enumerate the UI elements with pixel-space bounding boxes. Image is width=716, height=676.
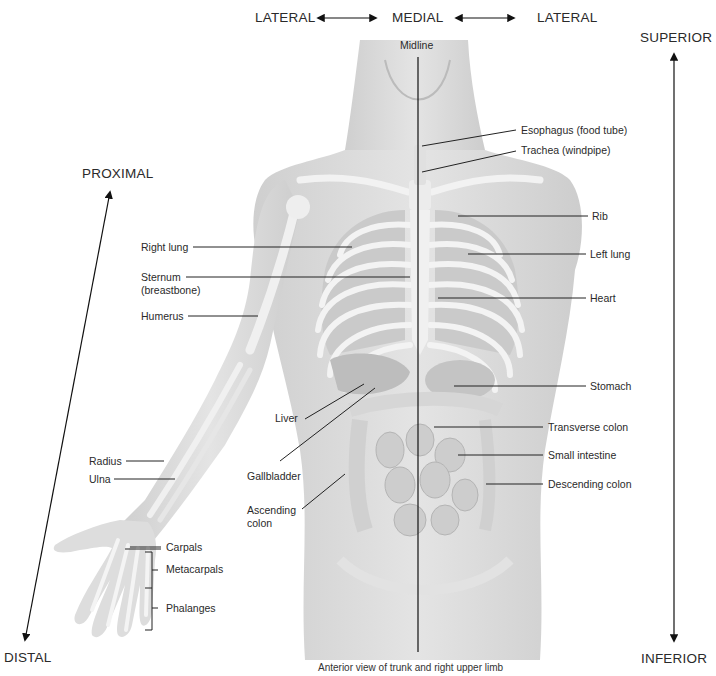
label-metacarpals: Metacarpals — [166, 563, 223, 576]
label-descending-colon: Descending colon — [548, 478, 631, 491]
anatomy-illustration — [0, 0, 716, 676]
label-left-lung: Left lung — [590, 248, 630, 261]
superior-label: SUPERIOR — [640, 30, 712, 45]
midline-label: Midline — [400, 39, 433, 52]
figure-caption: Anterior view of trunk and right upper l… — [318, 662, 503, 673]
label-esophagus: Esophagus (food tube) — [521, 124, 627, 137]
label-phalanges: Phalanges — [166, 602, 216, 615]
inferior-label: INFERIOR — [641, 651, 707, 666]
lateral-left-label: LATERAL — [255, 10, 315, 25]
label-carpals: Carpals — [166, 541, 202, 554]
label-liver: Liver — [275, 412, 298, 425]
proximal-label: PROXIMAL — [82, 166, 153, 181]
label-ascending-colon: Ascending — [247, 504, 296, 517]
label-sternum: Sternum — [141, 271, 181, 284]
lateral-right-label: LATERAL — [537, 10, 597, 25]
label-stomach: Stomach — [590, 380, 631, 393]
label-gallbladder: Gallbladder — [247, 470, 301, 483]
label-humerus: Humerus — [141, 310, 184, 323]
distal-label: DISTAL — [4, 650, 51, 665]
label-small-intestine: Small intestine — [548, 449, 616, 462]
label-right-lung: Right lung — [141, 241, 188, 254]
label-radius: Radius — [89, 455, 122, 468]
label-transverse-colon: Transverse colon — [548, 421, 628, 434]
label-sternum-sub: (breastbone) — [141, 284, 201, 297]
label-ascending-colon-sub: colon — [247, 517, 272, 530]
proximal-distal-arrow — [25, 192, 110, 640]
label-ulna: Ulna — [89, 473, 111, 486]
label-rib: Rib — [592, 210, 608, 223]
neck — [345, 40, 485, 150]
medial-label: MEDIAL — [392, 10, 443, 25]
label-trachea: Trachea (windpipe) — [521, 144, 611, 157]
label-heart: Heart — [590, 292, 616, 305]
